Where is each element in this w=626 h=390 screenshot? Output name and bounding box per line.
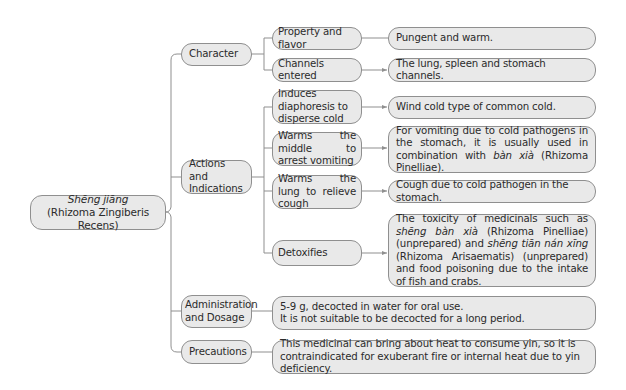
- detail-administration: 5-9 g, decocted in water for oral use. I…: [272, 296, 596, 330]
- node-warms-lung: Warms the lung to relieve cough: [272, 175, 362, 209]
- root-subtitle: (Rhizoma Zingiberis Recens): [47, 206, 149, 231]
- detail-property-flavor: Pungent and warm.: [388, 27, 596, 50]
- detail-warms-lung: Cough due to cold pathogen in the stomac…: [388, 180, 596, 203]
- detail-warms-middle: For vomiting due to cold pathogens in th…: [388, 126, 596, 173]
- node-detoxifies: Detoxifies: [272, 240, 362, 266]
- node-actions-indications: Actions and Indications: [181, 160, 252, 194]
- root-node: Shēng jiāng (Rhizoma Zingiberis Recens): [30, 195, 166, 230]
- node-warms-middle: Warms the middle to arrest vomiting: [272, 132, 362, 166]
- detail-induces-diaphoresis: Wind cold type of common cold.: [388, 96, 596, 119]
- node-property-flavor: Property and flavor: [272, 27, 362, 50]
- node-administration-dosage: Administration and Dosage: [181, 295, 252, 328]
- detail-detoxifies: The toxicity of medicinals such as shēng…: [388, 214, 596, 287]
- node-precautions: Precautions: [181, 340, 252, 364]
- node-character: Character: [181, 43, 252, 66]
- node-channels-entered: Channels entered: [272, 58, 362, 82]
- detail-precautions: This medicinal can bring about heat to c…: [272, 340, 596, 374]
- node-induces-diaphoresis: Induces diaphoresis to disperse cold: [272, 90, 362, 124]
- detail-channels-entered: The lung, spleen and stomach channels.: [388, 58, 596, 82]
- root-title: Shēng jiāng: [38, 193, 158, 206]
